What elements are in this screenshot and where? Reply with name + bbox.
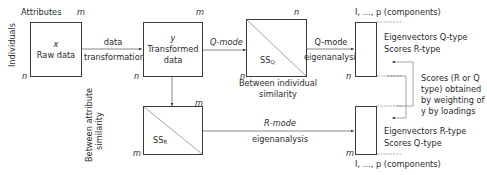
ssr-caption-line2: similarity [94,100,104,162]
q-result-rows-label: n [346,71,351,81]
transform-arrow-line1: data [86,37,140,47]
ssq-matrix-box: SSQ [246,19,307,77]
r-eig-arrow-line2: eigenanalysis [250,134,310,144]
ssr-caption: Between attribute similarity [84,100,104,162]
raw-cols-label: m [77,7,85,17]
individuals-axis-label: Individuals [7,23,17,67]
q-result-line1: Eigenvectors Q-type [384,32,468,42]
r-result-rows-label: m [346,148,354,158]
transformed-line1: Transformed [144,44,202,54]
ssq-cols-label: n [294,7,299,17]
scores-note-line2: type) obtained [421,84,481,94]
transformed-line2: data [144,55,202,65]
ssr-matrix-box: SSR [143,106,203,155]
transformed-cols-label: m [196,7,204,17]
q-result-line2: Scores R-type [384,44,440,54]
q-components-label: I, …, p (components) [355,7,441,17]
attributes-header: Attributes [21,7,61,17]
ssr-rows-label: m [133,148,141,158]
raw-data-box: x Raw data [30,22,82,77]
r-result-box [355,106,377,155]
raw-label: Raw data [31,50,81,60]
transform-arrow-line2: transformation [84,52,142,62]
scores-note-line1: Scores (R or Q [421,73,480,83]
transformed-data-box: y Transformed data [143,22,203,77]
r-components-label: I, …, p (components) [355,159,441,169]
raw-rows-label: n [22,71,27,81]
ssq-caption-line1: Between individual [236,78,320,88]
r-result-line2: Scores Q-type [384,138,442,148]
r-result-line1: Eigenvectors R-type [384,126,466,136]
transformed-symbol: y [144,33,202,43]
ssq-label: SSQ [260,55,275,67]
scores-note-line3: by weighting of [421,95,484,105]
raw-symbol: x [31,39,81,49]
transformed-rows-label: n [134,71,139,81]
q-eig-arrow-line1: Q-mode [308,37,354,47]
r-eig-arrow-line1: R-mode [255,118,305,128]
ssr-label: SSR [153,135,167,147]
q-mode-arrow-label: Q-mode [210,37,243,47]
q-result-box [355,22,377,77]
q-eig-arrow-line2: eigenanalysis [304,52,360,62]
ssq-caption-line2: similarity [236,89,320,99]
scores-note-line4: y by loadings [421,106,476,116]
ssr-caption-line1: Between attribute [84,100,94,162]
